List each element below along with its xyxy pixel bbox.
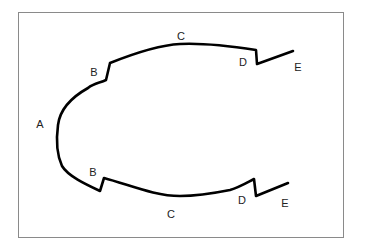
label-d-bottom: D (238, 195, 246, 206)
label-c-top: C (177, 31, 185, 42)
label-e-bottom: E (281, 198, 288, 209)
label-a: A (36, 119, 43, 130)
label-b-top: B (90, 67, 97, 78)
label-d-top: D (239, 57, 247, 68)
label-c-bottom: C (167, 209, 175, 220)
label-e-top: E (294, 62, 301, 73)
label-b-bottom: B (89, 167, 96, 178)
